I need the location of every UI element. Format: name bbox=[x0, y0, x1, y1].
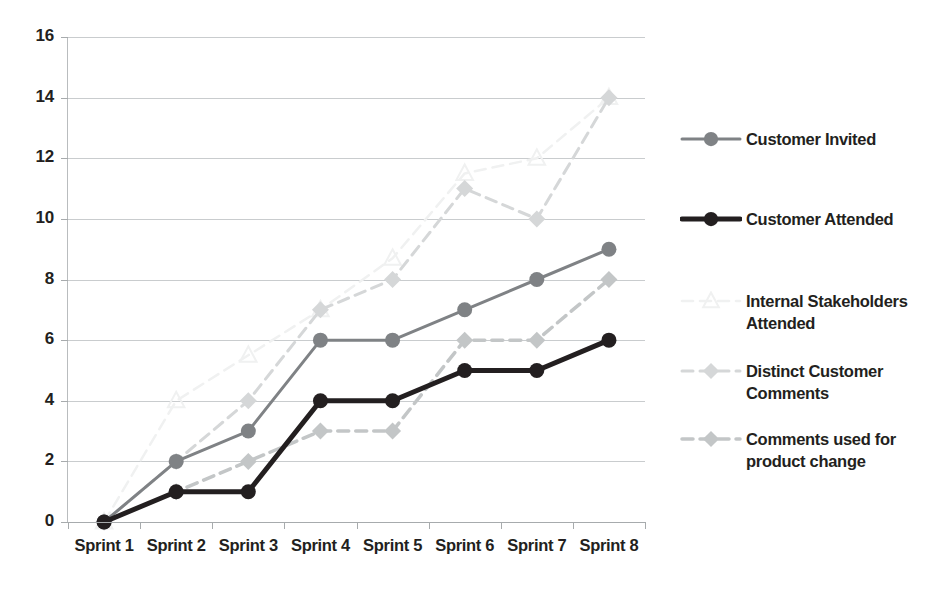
y-axis-label: 14 bbox=[20, 87, 54, 107]
y-tick bbox=[61, 401, 68, 402]
y-axis-label: 6 bbox=[20, 329, 54, 349]
x-tick bbox=[68, 523, 69, 529]
data-point-marker bbox=[385, 393, 400, 408]
line-chart: 0246810121416 Sprint 1Sprint 2Sprint 3Sp… bbox=[0, 0, 948, 590]
data-point-marker bbox=[169, 484, 184, 499]
legend-item[interactable]: Distinct Customer Comments bbox=[680, 360, 883, 404]
legend-item[interactable]: Customer Invited bbox=[680, 128, 876, 150]
data-point-marker bbox=[529, 272, 544, 287]
x-tick bbox=[212, 523, 213, 529]
x-axis-label: Sprint 8 bbox=[564, 536, 654, 555]
legend-marker-icon bbox=[680, 209, 742, 229]
x-tick bbox=[573, 523, 574, 529]
data-point-marker bbox=[169, 454, 184, 469]
x-tick bbox=[284, 523, 285, 529]
y-tick bbox=[61, 37, 68, 38]
legend-item[interactable]: Customer Attended bbox=[680, 208, 893, 230]
legend-marker-icon bbox=[680, 129, 742, 149]
data-point-marker bbox=[457, 363, 472, 378]
data-point-marker bbox=[168, 392, 185, 407]
data-point-marker bbox=[241, 484, 256, 499]
x-tick bbox=[501, 523, 502, 529]
x-tick bbox=[140, 523, 141, 529]
y-tick bbox=[61, 461, 68, 462]
legend-item[interactable]: Comments used for product change bbox=[680, 428, 896, 472]
y-axis-label: 16 bbox=[20, 26, 54, 46]
legend-label: Customer Attended bbox=[742, 208, 893, 230]
y-axis-label: 2 bbox=[20, 450, 54, 470]
y-tick bbox=[61, 98, 68, 99]
data-point-marker bbox=[240, 453, 257, 470]
y-tick bbox=[61, 158, 68, 159]
x-tick bbox=[645, 523, 646, 529]
data-point-marker bbox=[704, 212, 718, 226]
data-point-marker bbox=[703, 431, 719, 447]
data-point-marker bbox=[312, 423, 329, 440]
x-tick bbox=[429, 523, 430, 529]
data-point-marker bbox=[601, 242, 616, 257]
y-axis-label: 10 bbox=[20, 208, 54, 228]
data-point-marker bbox=[241, 424, 256, 439]
plot-area bbox=[68, 37, 645, 522]
data-point-marker bbox=[529, 363, 544, 378]
y-tick bbox=[61, 219, 68, 220]
data-point-marker bbox=[457, 302, 472, 317]
legend-marker-icon bbox=[680, 361, 742, 381]
x-tick bbox=[357, 523, 358, 529]
data-point-marker bbox=[703, 363, 719, 379]
legend-marker-icon bbox=[680, 291, 742, 311]
data-point-marker bbox=[528, 210, 545, 227]
y-axis-label: 12 bbox=[20, 147, 54, 167]
series-layer bbox=[68, 37, 645, 522]
y-tick bbox=[61, 280, 68, 281]
y-tick bbox=[61, 522, 68, 523]
data-point-marker bbox=[313, 333, 328, 348]
data-point-marker bbox=[704, 132, 718, 146]
y-tick bbox=[61, 340, 68, 341]
data-point-marker bbox=[385, 333, 400, 348]
y-axis-label: 0 bbox=[20, 511, 54, 531]
legend-label: Comments used for product change bbox=[742, 428, 896, 472]
data-point-marker bbox=[313, 393, 328, 408]
y-axis-label: 8 bbox=[20, 269, 54, 289]
series-line bbox=[104, 249, 609, 522]
legend-item[interactable]: Internal Stakeholders Attended bbox=[680, 290, 908, 334]
legend-marker-icon bbox=[680, 429, 742, 449]
legend-label: Customer Invited bbox=[742, 128, 876, 150]
data-point-marker bbox=[384, 271, 401, 288]
y-axis-label: 4 bbox=[20, 390, 54, 410]
data-point-marker bbox=[601, 333, 616, 348]
legend-label: Internal Stakeholders Attended bbox=[742, 290, 908, 334]
legend-label: Distinct Customer Comments bbox=[742, 360, 883, 404]
